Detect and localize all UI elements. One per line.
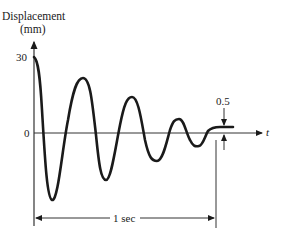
residual-label: 0.5 [216, 96, 230, 107]
displacement-plot [0, 0, 282, 242]
y-axis-label: Displacement [2, 11, 65, 22]
tick-30: 30 [16, 52, 27, 63]
y-axis-unit: (mm) [20, 24, 46, 35]
t-axis-label: t [266, 127, 269, 138]
duration-label: 1 sec [113, 213, 135, 224]
damped-oscillation-curve [34, 57, 233, 200]
tick-0: 0 [24, 128, 30, 139]
